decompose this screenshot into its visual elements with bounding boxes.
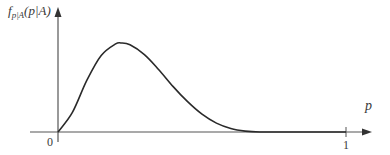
x-tick-label-1: 1 — [343, 138, 349, 153]
y-axis-label: fp|A(p|A) — [8, 3, 51, 20]
y-axis-arrow-icon — [55, 7, 62, 17]
x-axis-label: p — [365, 98, 372, 114]
x-tick-label-0: 0 — [47, 135, 53, 150]
density-curve — [58, 43, 346, 132]
density-chart — [0, 0, 390, 155]
x-axis-arrow-icon — [362, 129, 372, 136]
